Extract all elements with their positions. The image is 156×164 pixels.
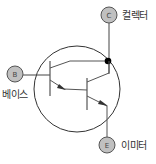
q1-emitter-wire [50, 80, 87, 90]
emitter-terminal: E [99, 137, 115, 153]
collector-terminal: C [101, 7, 117, 23]
collector-label: 컬렉터 [122, 10, 148, 22]
svg-text:B: B [13, 71, 18, 79]
q2-collector-wire [87, 61, 109, 82]
q2-emitter-arrow [98, 100, 108, 106]
svg-text:E: E [105, 142, 109, 150]
base-terminal: B [7, 66, 23, 82]
emitter-label: 이미터 [121, 140, 147, 152]
q2-emitter-wire [87, 96, 107, 137]
base-label: 베이스 [2, 89, 28, 101]
q1-collector-wire [50, 61, 109, 68]
junction-dot [105, 58, 112, 65]
svg-text:C: C [107, 12, 112, 20]
